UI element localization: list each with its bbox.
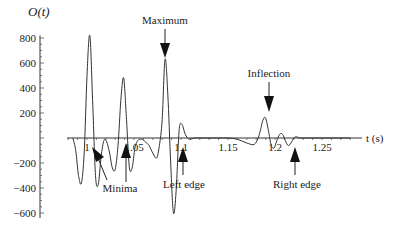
y-tick-label: −600 — [13, 207, 36, 219]
y-axis-label: O(t) — [28, 4, 50, 19]
minima-label: Minima — [103, 182, 138, 194]
annotation-maximum: Maximum — [142, 14, 188, 58]
y-tick-label: −400 — [13, 182, 36, 194]
arrow-up-icon — [290, 147, 300, 162]
x-tick-label: 1.15 — [218, 141, 238, 153]
y-tick-label: 200 — [20, 107, 37, 119]
annotation-left-edge: Left edge — [163, 147, 205, 190]
y-tick-label: 800 — [20, 32, 37, 44]
y-axis: 800600400200−200−400−600 — [13, 32, 44, 219]
chart: O(t) 800600400200−200−400−600 11.051.11.… — [0, 0, 400, 232]
x-tick-label: 1.25 — [312, 141, 332, 153]
y-tick-label: −200 — [13, 157, 36, 169]
arrow-down-icon — [264, 96, 274, 112]
x-axis-label: t (s) — [366, 132, 384, 145]
y-tick-label: 400 — [20, 82, 37, 94]
annotation-inflection: Inflection — [248, 67, 291, 112]
arrow-down-icon — [160, 43, 170, 58]
left-edge-label: Left edge — [163, 178, 205, 190]
y-tick-label: 600 — [20, 57, 37, 69]
annotation-right-edge: Right edge — [273, 147, 321, 190]
maximum-label: Maximum — [142, 14, 188, 26]
inflection-label: Inflection — [248, 67, 291, 79]
x-axis: 11.051.11.151.21.25 — [67, 138, 362, 153]
x-tick-label: 1.1 — [174, 141, 188, 153]
right-edge-label: Right edge — [273, 178, 321, 190]
